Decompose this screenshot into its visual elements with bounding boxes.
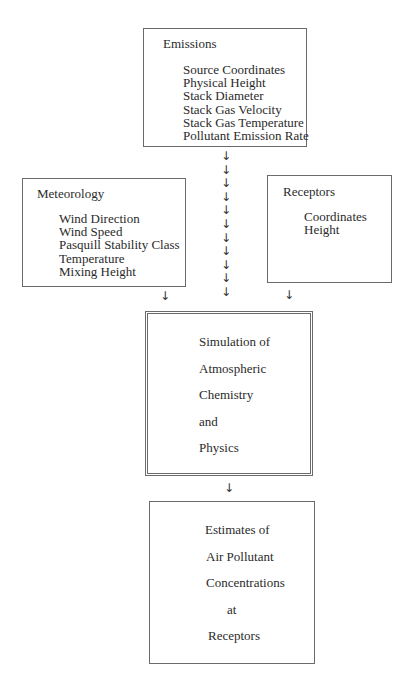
down-arrow-icon: ↓ (221, 177, 231, 191)
meteorology-box: Meteorology Wind Direction Wind Speed Pa… (22, 178, 186, 287)
emissions-box: Emissions Source Coordinates Physical He… (143, 28, 307, 147)
emissions-item: Stack Gas Temperature (183, 116, 309, 129)
meteorology-items: Wind Direction Wind Speed Pasquill Stabi… (59, 212, 180, 278)
simulation-lines: Simulation of Atmospheric Chemistry and … (199, 334, 270, 467)
receptors-item: Height (304, 223, 367, 236)
emissions-item: Stack Diameter (183, 89, 309, 102)
estimates-line: Air Pollutant (150, 549, 316, 576)
down-arrow-icon: ↓ (221, 164, 231, 178)
meteorology-item: Temperature (59, 252, 180, 265)
meteorology-title: Meteorology (37, 186, 104, 201)
simulation-to-estimates-arrow-icon: ↓ (224, 482, 234, 494)
emissions-item: Stack Gas Velocity (183, 103, 309, 116)
down-arrow-icon: ↓ (221, 286, 231, 300)
simulation-box: Simulation of Atmospheric Chemistry and … (145, 311, 313, 476)
meteorology-to-simulation-arrow-icon: ↓ (160, 290, 170, 302)
estimates-line: Estimates of (150, 522, 316, 549)
estimates-line: at (150, 602, 316, 629)
down-arrow-icon: ↓ (221, 245, 231, 259)
emissions-to-simulation-arrows: ↓ ↓ ↓ ↓ ↓ ↓ ↓ ↓ ↓ ↓ ↓ (221, 150, 231, 300)
receptors-title: Receptors (283, 184, 335, 199)
receptors-items: Coordinates Height (304, 210, 367, 236)
estimates-line: Concentrations (150, 575, 316, 602)
simulation-line: Atmospheric (199, 361, 270, 388)
estimates-line: Receptors (150, 628, 316, 655)
emissions-item: Pollutant Emission Rate (183, 129, 309, 142)
simulation-line: and (199, 414, 270, 441)
emissions-title: Emissions (163, 36, 216, 51)
receptors-box: Receptors Coordinates Height (267, 175, 392, 283)
meteorology-item: Pasquill Stability Class (59, 238, 180, 251)
down-arrow-icon: ↓ (221, 218, 231, 232)
down-arrow-icon: ↓ (221, 259, 231, 273)
emissions-items: Source Coordinates Physical Height Stack… (183, 63, 309, 142)
down-arrow-icon: ↓ (221, 204, 231, 218)
simulation-line: Simulation of (199, 334, 270, 361)
estimates-box: Estimates of Air Pollutant Concentration… (149, 501, 315, 664)
down-arrow-icon: ↓ (221, 150, 231, 164)
down-arrow-icon: ↓ (221, 232, 231, 246)
down-arrow-icon: ↓ (221, 191, 231, 205)
receptors-to-simulation-arrow-icon: ↓ (284, 289, 294, 301)
simulation-line: Chemistry (199, 387, 270, 414)
estimates-lines: Estimates of Air Pollutant Concentration… (150, 522, 316, 655)
down-arrow-icon: ↓ (221, 272, 231, 286)
simulation-line: Physics (199, 440, 270, 467)
meteorology-item: Mixing Height (59, 265, 180, 278)
